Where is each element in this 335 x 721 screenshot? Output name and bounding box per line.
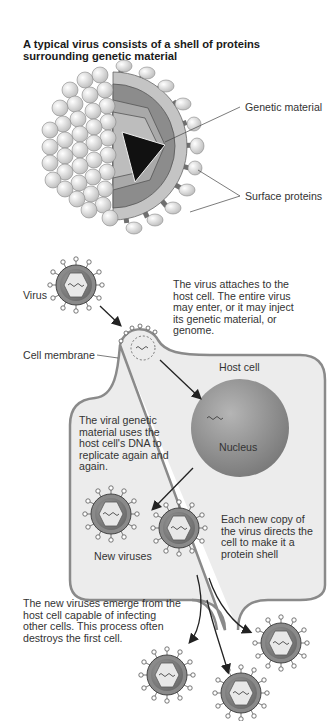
label-host-cell: Host cell	[219, 361, 260, 373]
label-surface-proteins: Surface proteins	[245, 190, 322, 202]
label-virus: Virus	[23, 289, 47, 301]
step-emerge-text: The new viruses emerge from the host cel…	[23, 598, 183, 644]
diagram-title: A typical virus consists of a shell of p…	[23, 38, 323, 62]
virus-cross-section	[42, 60, 240, 234]
label-nucleus: Nucleus	[219, 441, 257, 453]
label-cell-membrane: Cell membrane	[23, 349, 95, 361]
emerged-virus-icon	[213, 665, 269, 721]
nucleus	[191, 379, 289, 477]
host-cell	[70, 329, 325, 630]
step-replicate-text: The viral genetic material uses the host…	[79, 415, 174, 473]
emerged-virus-icon	[253, 615, 309, 671]
label-new-viruses: New viruses	[94, 550, 152, 562]
virus-icon	[48, 257, 104, 313]
step-protein-shell-text: Each new copy of the virus directs the c…	[221, 514, 321, 560]
label-genetic-material: Genetic material	[245, 101, 322, 113]
step-attach-text: The virus attaches to the host cell. The…	[173, 279, 303, 337]
emerged-virus-icon	[139, 647, 195, 703]
